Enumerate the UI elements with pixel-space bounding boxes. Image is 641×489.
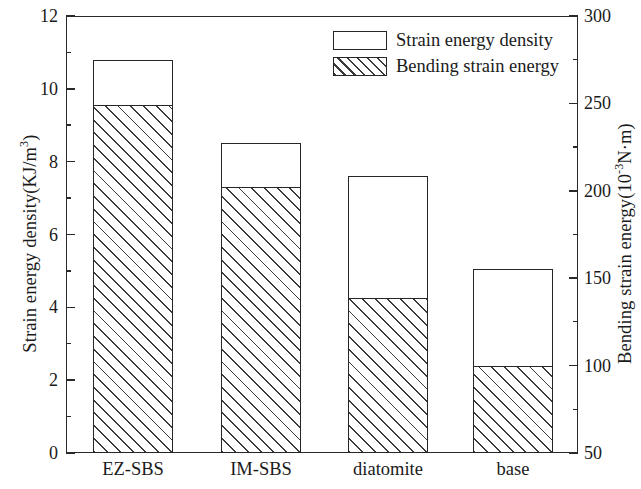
axis-tick bbox=[573, 59, 578, 60]
axis-tick bbox=[569, 15, 578, 17]
axis-tick bbox=[569, 452, 578, 454]
axis-tick bbox=[66, 307, 75, 309]
left-axis-tick-label-text: 12 bbox=[0, 7, 58, 25]
right-axis-title-main: Bending strain energy(10 bbox=[615, 174, 635, 364]
axis-tick bbox=[66, 52, 71, 53]
right-axis-title-superscript: -3 bbox=[612, 164, 626, 174]
axis-tick bbox=[66, 197, 71, 198]
bar-base bbox=[473, 269, 553, 453]
bar-diatomite bbox=[348, 176, 428, 453]
legend-swatch-hatched bbox=[333, 57, 387, 76]
axis-tick bbox=[573, 321, 578, 322]
axis-tick bbox=[66, 124, 71, 125]
bar-segment-bending-strain-energy bbox=[348, 298, 428, 453]
x-axis-category-label: base bbox=[433, 459, 593, 480]
axis-tick bbox=[573, 234, 578, 235]
legend-item-label: Bending strain energy bbox=[396, 57, 559, 76]
right-axis-title: Bending strain energy(10-3N·m) bbox=[612, 94, 635, 394]
axis-tick bbox=[66, 234, 75, 236]
right-axis-title-tail: N·m) bbox=[615, 123, 635, 163]
left-axis-tick-label-text: 0 bbox=[0, 444, 58, 462]
right-axis-tick-label: 300 bbox=[584, 7, 641, 25]
bar-segment-strain-energy-density bbox=[221, 143, 301, 188]
bar-segment-strain-energy-density bbox=[348, 176, 428, 299]
axis-tick bbox=[569, 103, 578, 105]
bar-segment-strain-energy-density bbox=[93, 60, 173, 107]
right-axis-tick-label-text: 300 bbox=[584, 7, 641, 25]
axis-tick bbox=[569, 277, 578, 279]
left-axis-title-main: Strain energy density(KJ/m bbox=[20, 147, 40, 353]
axis-tick bbox=[66, 343, 71, 344]
left-axis-title-tail: ) bbox=[20, 135, 40, 141]
legend-item-label: Strain energy density bbox=[396, 31, 553, 50]
left-axis-title-superscript: 3 bbox=[17, 141, 31, 147]
left-axis-title: Strain energy density(KJ/m3) bbox=[17, 94, 40, 394]
left-axis-tick-label: 0 bbox=[0, 444, 58, 462]
axis-tick bbox=[66, 416, 71, 417]
bar-ez-sbs bbox=[93, 60, 173, 453]
axis-tick bbox=[66, 15, 75, 17]
legend-swatch-open bbox=[333, 31, 387, 50]
axis-tick bbox=[66, 379, 75, 381]
bar-segment-strain-energy-density bbox=[473, 269, 553, 367]
axis-tick bbox=[66, 88, 75, 90]
bar-segment-bending-strain-energy bbox=[93, 105, 173, 453]
axis-tick bbox=[66, 270, 71, 271]
legend: Strain energy densityBending strain ener… bbox=[333, 28, 559, 80]
chart-container: 12108642030025020015010050 Strain energy… bbox=[0, 0, 641, 489]
bar-segment-bending-strain-energy bbox=[221, 187, 301, 453]
legend-item: Strain energy density bbox=[333, 28, 559, 52]
axis-tick bbox=[66, 452, 75, 454]
axis-tick bbox=[573, 146, 578, 147]
bar-segment-bending-strain-energy bbox=[473, 366, 553, 453]
axis-tick bbox=[569, 190, 578, 192]
legend-item: Bending strain energy bbox=[333, 54, 559, 78]
axis-tick bbox=[573, 409, 578, 410]
axis-tick bbox=[569, 365, 578, 367]
left-axis-tick-label: 12 bbox=[0, 7, 58, 25]
axis-tick bbox=[66, 161, 75, 163]
bar-im-sbs bbox=[221, 143, 301, 453]
